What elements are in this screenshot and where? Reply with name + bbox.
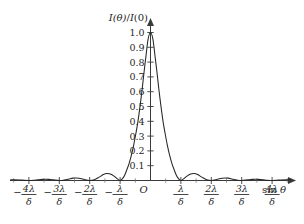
x-tick-label-origin: O (139, 184, 147, 195)
x-tick-sign: − (74, 187, 82, 198)
x-tick-label--4: 4λδ− (13, 183, 36, 207)
y-tick-label-0.7: 0.7 (129, 71, 144, 82)
x-tick-denominator: δ (117, 196, 123, 207)
y-tick-label-0.2: 0.2 (129, 145, 144, 156)
y-axis-title: I(θ)/I(0) (108, 12, 148, 23)
x-tick-denominator: δ (26, 196, 32, 207)
y-tick-label-0.4: 0.4 (129, 116, 144, 127)
x-tick-numerator: λ (177, 183, 184, 194)
x-tick-numerator: λ (116, 183, 123, 194)
x-axis-arrow-icon (288, 177, 296, 184)
x-axis-tick-labels: 4λδ−3λδ−2λδ−λδ−Oλδ2λδ3λδ4λδ (13, 183, 279, 207)
y-axis-title-part: (θ) (113, 12, 127, 23)
y-tick-label-0.6: 0.6 (129, 86, 144, 97)
x-tick-sign: − (44, 187, 52, 198)
x-tick-label--3: 3λδ− (44, 183, 67, 207)
x-tick-label-2: 2λδ (204, 183, 219, 207)
x-tick-denominator: δ (56, 196, 62, 207)
x-tick-sign: − (104, 187, 112, 198)
x-tick-numerator: 4λ (22, 183, 35, 194)
x-tick-denominator: δ (87, 196, 93, 207)
x-tick-label--1: λδ− (104, 183, 127, 207)
y-axis-title-part: (0) (134, 12, 148, 23)
x-tick-denominator: δ (239, 196, 245, 207)
y-tick-label-0.1: 0.1 (129, 160, 144, 171)
y-tick-label-0.8: 0.8 (129, 57, 144, 68)
y-tick-label-0.5: 0.5 (129, 101, 144, 112)
x-tick-denominator: δ (269, 196, 275, 207)
y-tick-label-1.0: 1.0 (129, 27, 144, 38)
x-tick-denominator: δ (208, 196, 214, 207)
x-tick-numerator: 2λ (204, 183, 217, 194)
y-tick-label-0.9: 0.9 (129, 42, 144, 53)
y-tick-label-0.3: 0.3 (129, 131, 144, 142)
y-axis-title-part: θ (280, 184, 286, 195)
x-tick-denominator: δ (178, 196, 184, 207)
chart-svg: 0.10.20.30.40.50.60.70.80.91.0 4λδ−3λδ−2… (0, 0, 304, 224)
diffraction-intensity-chart: 0.10.20.30.40.50.60.70.80.91.0 4λδ−3λδ−2… (0, 0, 304, 224)
x-axis-title: sin θ (262, 184, 286, 195)
x-tick-sign: − (13, 187, 21, 198)
x-tick-label-3: 3λδ (234, 183, 249, 207)
y-axis-arrow-icon (147, 18, 154, 26)
x-tick-label--2: 2λδ− (74, 183, 97, 207)
x-tick-label-1: λδ (173, 183, 188, 207)
x-tick-numerator: 2λ (83, 183, 96, 194)
x-tick-numerator: 3λ (236, 183, 248, 194)
x-tick-numerator: 3λ (53, 183, 65, 194)
y-axis-tick-labels: 0.10.20.30.40.50.60.70.80.91.0 (129, 27, 144, 171)
y-axis-title-part: sin (262, 184, 280, 195)
